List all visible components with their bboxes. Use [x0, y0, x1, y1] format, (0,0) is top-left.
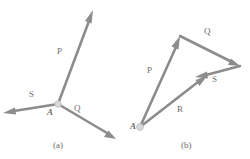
- vector-diagram-figure: P S Q A (a) P Q S R A (b): [0, 0, 250, 159]
- label-point-a-panel-b: A: [130, 122, 136, 131]
- label-point-a-panel-a: A: [47, 108, 53, 117]
- vector-q-a: [58, 104, 116, 139]
- label-vector-q-panel-b: Q: [204, 27, 211, 36]
- caption-panel-b: (b): [181, 141, 192, 150]
- label-vector-s-panel-a: S: [29, 90, 34, 99]
- node-a-panel-b: [137, 124, 144, 131]
- vector-q-b: [180, 36, 240, 66]
- caption-panel-a: (a): [53, 141, 63, 150]
- vector-p-b: [140, 36, 180, 127]
- label-vector-p-panel-a: P: [57, 47, 62, 56]
- label-vector-q-panel-a: Q: [74, 104, 81, 113]
- label-vector-s-panel-b: S: [212, 75, 217, 84]
- panel-a-vectors: [3, 10, 116, 139]
- vector-p-a: [58, 10, 93, 104]
- panel-b-vectors: [137, 36, 240, 130]
- vector-s-b: [195, 66, 240, 79]
- node-a-panel-a: [55, 101, 61, 107]
- label-vector-p-panel-b: P: [147, 66, 152, 75]
- label-vector-r-panel-b: R: [177, 105, 183, 114]
